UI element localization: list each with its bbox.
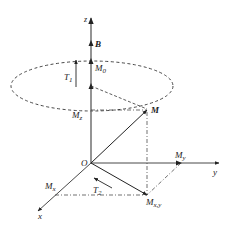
t1-label: T1 (64, 72, 73, 84)
z-axis-label: z (83, 15, 88, 24)
magnetization-diagram: z B M0 T1 M Mz O My y Mx T2 Mx,y x (0, 0, 229, 232)
b-field-arrow-icon (89, 40, 94, 46)
m-vector (91, 110, 147, 163)
mz-label: Mz (71, 110, 83, 122)
y-axis-label: y (212, 167, 217, 177)
m-label: M (150, 105, 160, 115)
radius-dashed (91, 86, 147, 109)
b-field-label: B (94, 39, 101, 49)
my-projection (147, 163, 181, 195)
mxy-label: Mx,y (145, 197, 162, 209)
mx-label: Mx (44, 181, 57, 193)
m0-label: M0 (94, 63, 107, 75)
x-axis-label: x (37, 211, 42, 221)
my-label: My (174, 150, 187, 162)
origin-label: O (81, 158, 88, 168)
